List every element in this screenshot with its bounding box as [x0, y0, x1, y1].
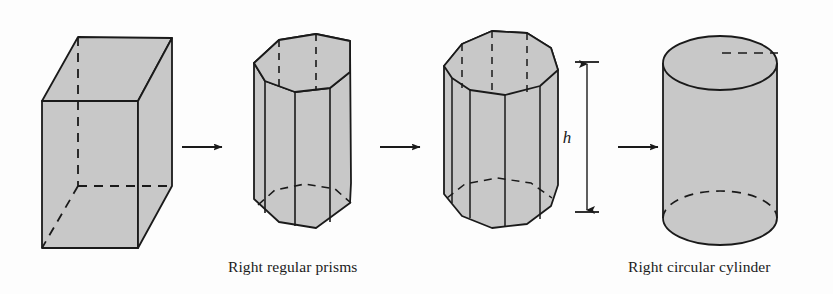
caption-right-regular-prisms: Right regular prisms: [228, 258, 357, 276]
height-label: h: [563, 128, 572, 147]
rectangular-prism: [42, 37, 172, 248]
dodecagonal-prism: [444, 31, 558, 228]
height-dimension: h: [563, 62, 599, 212]
geometry-figure: h Right regular prisms Right circular cy…: [0, 0, 833, 294]
octagonal-prism: [254, 34, 351, 228]
cylinder-top-face: [663, 36, 777, 90]
figure-canvas: h: [0, 0, 833, 294]
circular-cylinder: [663, 36, 778, 245]
caption-right-circular-cylinder: Right circular cylinder: [628, 258, 771, 276]
prism-front-face: [42, 101, 138, 248]
